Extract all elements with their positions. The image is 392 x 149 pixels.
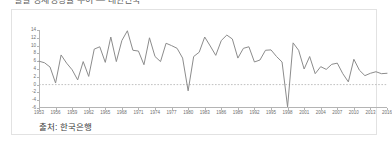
x-tick-label: 1974 [150, 111, 160, 116]
x-tick-label: 2010 [349, 111, 359, 116]
x-tick-label: 2001 [299, 111, 309, 116]
y-tick-label: 4 [33, 67, 36, 72]
x-tick-label: 1980 [183, 111, 193, 116]
y-tick-label: 2 [33, 75, 36, 80]
x-tick-label: 1971 [133, 111, 143, 116]
y-tick-label: -2 [32, 90, 36, 95]
x-tick-label: 1965 [100, 111, 110, 116]
series-svg [39, 30, 387, 108]
y-tick-label: -4 [32, 98, 36, 103]
x-tick-label: 2004 [316, 111, 326, 116]
x-tick-label: 1992 [249, 111, 259, 116]
y-tick-label: 12 [31, 36, 36, 41]
x-tick-label: 2007 [332, 111, 342, 116]
chart-title-strip: 실질 경제성장률 추이 — 대한민국 [0, 0, 389, 9]
x-tick-label: 1995 [266, 111, 276, 116]
x-tick-label: 1983 [200, 111, 210, 116]
y-tick-label: 0 [33, 82, 36, 87]
chart-card: 14121086420-2-4-6 1953195619591962196519… [11, 9, 377, 135]
x-tick-label: 2013 [365, 111, 375, 116]
y-tick-label: 6 [33, 59, 36, 64]
x-tick-label: 1989 [233, 111, 243, 116]
x-tick-label: 1977 [167, 111, 177, 116]
y-tick-label: 8 [33, 51, 36, 56]
x-tick-label: 1959 [67, 111, 77, 116]
plot-area: 14121086420-2-4-6 1953195619591962196519… [39, 30, 387, 108]
y-tick-label: 10 [31, 43, 36, 48]
x-tick-label: 1968 [117, 111, 127, 116]
y-tick-label: 14 [31, 28, 36, 33]
x-tick-label: 1962 [84, 111, 94, 116]
x-tick-label: 2016 [382, 111, 392, 116]
x-tick-label: 1956 [51, 111, 61, 116]
x-tick-label: 1953 [34, 111, 44, 116]
gdp-growth-series-line [39, 31, 387, 107]
chart-title: 실질 경제성장률 추이 — 대한민국 [14, 0, 141, 6]
source-note: 출처: 한국은행 [39, 120, 92, 132]
x-tick-label: 1986 [216, 111, 226, 116]
x-tick-label: 1998 [283, 111, 293, 116]
